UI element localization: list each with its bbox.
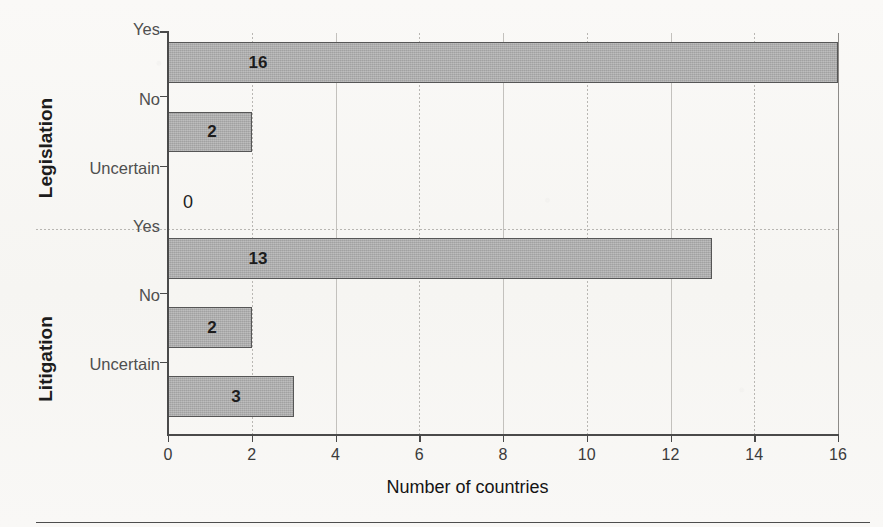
x-tick-4 <box>336 434 337 442</box>
x-tick-6 <box>419 434 420 442</box>
x-tick-label-10: 10 <box>578 446 596 464</box>
category-label-1-no: No <box>139 90 160 109</box>
x-tick-0 <box>168 434 169 442</box>
category-label-3-yes: Yes <box>133 217 160 236</box>
x-tick-label-2: 2 <box>247 446 256 464</box>
category-label-4-no: No <box>139 286 160 305</box>
y-axis-top-cap <box>160 31 168 33</box>
x-tick-label-16: 16 <box>829 446 847 464</box>
x-tick-14 <box>754 434 755 442</box>
x-tick-label-8: 8 <box>499 446 508 464</box>
x-tick-label-4: 4 <box>331 446 340 464</box>
bar-chart-figure: 16201323 0246810121416 YesNoUncertainYes… <box>0 0 883 527</box>
category-label-5-uncertain: Uncertain <box>89 355 160 374</box>
y-tick-layer <box>168 33 838 434</box>
bottom-rule <box>36 522 870 523</box>
group-label-legislation: Legislation <box>35 98 57 198</box>
x-tick-label-0: 0 <box>164 446 173 464</box>
x-tick-8 <box>503 434 504 442</box>
x-tick-2 <box>252 434 253 442</box>
x-tick-label-6: 6 <box>415 446 424 464</box>
x-tick-12 <box>671 434 672 442</box>
category-label-0-yes: Yes <box>133 20 160 39</box>
y-axis-line <box>167 31 169 436</box>
category-label-2-uncertain: Uncertain <box>89 159 160 178</box>
x-tick-16 <box>838 434 839 442</box>
x-axis-title-text: Number of countries <box>334 477 548 497</box>
gridline-16 <box>838 33 839 434</box>
x-tick-label-12: 12 <box>662 446 680 464</box>
x-tick-label-14: 14 <box>745 446 763 464</box>
x-axis-title: Number of countries <box>0 477 883 498</box>
group-label-litigation: Litigation <box>35 316 57 401</box>
x-tick-10 <box>587 434 588 442</box>
